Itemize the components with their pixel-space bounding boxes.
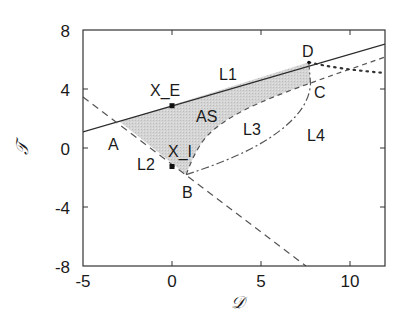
plot-svg: -5 0 5 10 8 4 0 -4 -8 𝒟 𝒯 A B C D X_E X_… — [0, 0, 406, 319]
marker-x-e — [170, 103, 175, 108]
marker-d — [307, 61, 310, 64]
x-tick-label: 0 — [167, 272, 176, 291]
marker-x-i — [170, 164, 175, 169]
label-x-e: X_E — [150, 82, 180, 100]
label-point-c: C — [314, 84, 326, 101]
y-tick-label: -4 — [55, 199, 70, 218]
y-tick-label: 4 — [61, 81, 70, 100]
label-line-l2: L2 — [137, 156, 155, 173]
label-line-l1: L1 — [219, 66, 237, 83]
y-tick-label: 0 — [61, 140, 70, 159]
label-x-i: X_I — [168, 143, 192, 161]
label-point-a: A — [108, 136, 119, 153]
x-tick-label: 5 — [256, 272, 265, 291]
label-line-l3: L3 — [243, 121, 261, 138]
line-l1 — [83, 44, 385, 132]
x-axis-title: 𝒟 — [231, 293, 248, 312]
x-tick-label: 10 — [341, 272, 360, 291]
label-point-d: D — [302, 43, 314, 60]
x-tick-label: -5 — [75, 272, 90, 291]
y-tick-label: -8 — [55, 258, 70, 277]
y-tick-label: 8 — [61, 22, 70, 41]
label-line-l4: L4 — [307, 127, 325, 144]
label-point-b: B — [182, 184, 193, 201]
label-region-as: AS — [196, 108, 217, 125]
phase-diagram-figure: -5 0 5 10 8 4 0 -4 -8 𝒟 𝒯 A B C D X_E X_… — [0, 0, 406, 319]
dotted-extension-line — [309, 62, 385, 73]
y-axis-title: 𝒯 — [13, 137, 32, 155]
